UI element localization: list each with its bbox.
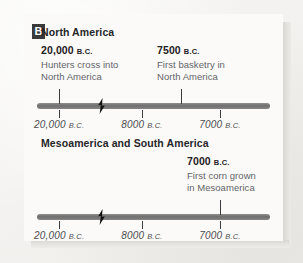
axis-tick-label: 20,000 B.C. (34, 230, 84, 241)
timeline-rod (37, 214, 270, 220)
axis-tick-label-value: 7000 (199, 230, 222, 241)
event-date: 20,000 B.C. (41, 44, 118, 58)
event-description-line-2: North America (157, 71, 225, 83)
axis-tick-label-value: 8000 (121, 230, 144, 241)
axis-tick (142, 110, 143, 118)
event-callout-hunters: 20,000 B.C. Hunters cross into North Ame… (41, 44, 118, 82)
event-callout-basketry: 7500 B.C. First basketry in North Americ… (157, 44, 225, 82)
event-tick-marker (59, 89, 60, 104)
axis-tick (220, 110, 221, 118)
timeline-break-lightning-bolt-icon (97, 98, 106, 114)
axis-tick-label-era: B.C. (147, 232, 162, 241)
axis-tick-label-value: 20,000 (34, 230, 66, 241)
axis-tick (220, 221, 221, 229)
timeline-rod (37, 103, 270, 109)
event-date-value: 20,000 (41, 44, 74, 56)
timeline-axis: 20,000 B.C. 8000 B.C. 7000 B.C. (24, 199, 283, 245)
axis-tick-label-value: 8000 (121, 119, 144, 130)
axis-tick-label-era: B.C. (69, 232, 84, 241)
axis-tick-label-era: B.C. (147, 121, 162, 130)
card-shadow-right (282, 22, 291, 246)
axis-tick-label: 20,000 B.C. (34, 119, 84, 130)
axis-tick (59, 221, 60, 229)
timeline-heading-north-america: North America (41, 26, 114, 38)
event-date-value: 7000 (187, 155, 211, 167)
axis-tick (142, 221, 143, 229)
axis-tick-label-era: B.C. (69, 121, 84, 130)
event-date-era: B.C. (214, 158, 230, 167)
axis-tick-label-era: B.C. (225, 232, 240, 241)
timeline-break-lightning-bolt-icon (97, 209, 106, 225)
event-description-line-1: First corn grown (187, 170, 256, 182)
axis-tick-label: 7000 B.C. (199, 230, 240, 241)
event-date: 7000 B.C. (187, 155, 256, 169)
event-date: 7500 B.C. (157, 44, 225, 58)
event-description-line-2: in Mesoamerica (187, 182, 256, 194)
axis-tick-label-era: B.C. (225, 121, 240, 130)
event-description-line-1: Hunters cross into (41, 59, 118, 71)
axis-tick-label-value: 7000 (199, 119, 222, 130)
axis-tick-label: 8000 B.C. (121, 119, 162, 130)
event-description-line-1: First basketry in (157, 59, 225, 71)
event-date-era: B.C. (184, 47, 200, 56)
event-tick-marker (220, 200, 221, 215)
event-date-value: 7500 (157, 44, 181, 56)
axis-tick-label: 8000 B.C. (121, 230, 162, 241)
event-tick-marker (181, 89, 182, 104)
event-date-era: B.C. (77, 47, 93, 56)
figure-card: B North America 20,000 B.C. Hunters cros… (24, 14, 283, 241)
axis-tick-label-value: 20,000 (34, 119, 66, 130)
event-description-line-2: North America (41, 71, 118, 83)
timeline-axis: 20,000 B.C. 8000 B.C. 7000 B.C. (24, 88, 283, 134)
axis-tick-label: 7000 B.C. (199, 119, 240, 130)
event-callout-corn: 7000 B.C. First corn grown in Mesoameric… (187, 155, 256, 193)
figure-panel: B North America 20,000 B.C. Hunters cros… (0, 0, 303, 263)
timeline-heading-mesoamerica: Mesoamerica and South America (41, 137, 209, 149)
axis-tick (59, 110, 60, 118)
